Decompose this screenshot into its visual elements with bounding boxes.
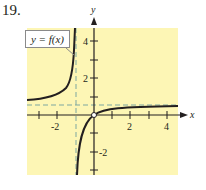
function-graph: -2 2 4 4 2 -2 x y bbox=[0, 0, 206, 190]
svg-text:-2: -2 bbox=[51, 121, 59, 132]
svg-text:2: 2 bbox=[83, 73, 88, 84]
origin-point bbox=[92, 113, 97, 118]
x-axis-label: x bbox=[189, 109, 195, 120]
svg-text:2: 2 bbox=[127, 121, 132, 132]
y-axis-label: y bbox=[90, 4, 96, 15]
x-axis-arrow-icon bbox=[180, 112, 188, 118]
svg-text:-2: -2 bbox=[99, 147, 107, 158]
svg-text:4: 4 bbox=[164, 121, 169, 132]
y-axis-arrow-icon bbox=[91, 17, 97, 25]
svg-text:4: 4 bbox=[83, 36, 88, 47]
function-label: y = f(x) bbox=[25, 30, 70, 48]
